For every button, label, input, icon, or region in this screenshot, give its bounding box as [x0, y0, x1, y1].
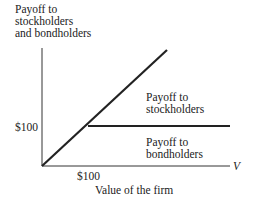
x-tick-100: $100 — [77, 170, 100, 182]
stockholders-label: Payoff to stockholders — [146, 91, 204, 115]
x-axis-title: Value of the firm — [95, 184, 173, 196]
x-axis-symbol: V — [233, 160, 240, 172]
y-axis-title: Payoff to stockholders and bondholders — [15, 3, 91, 39]
bondholders-label: Payoff to bondholders — [146, 136, 203, 160]
y-tick-100: $100 — [15, 121, 38, 133]
